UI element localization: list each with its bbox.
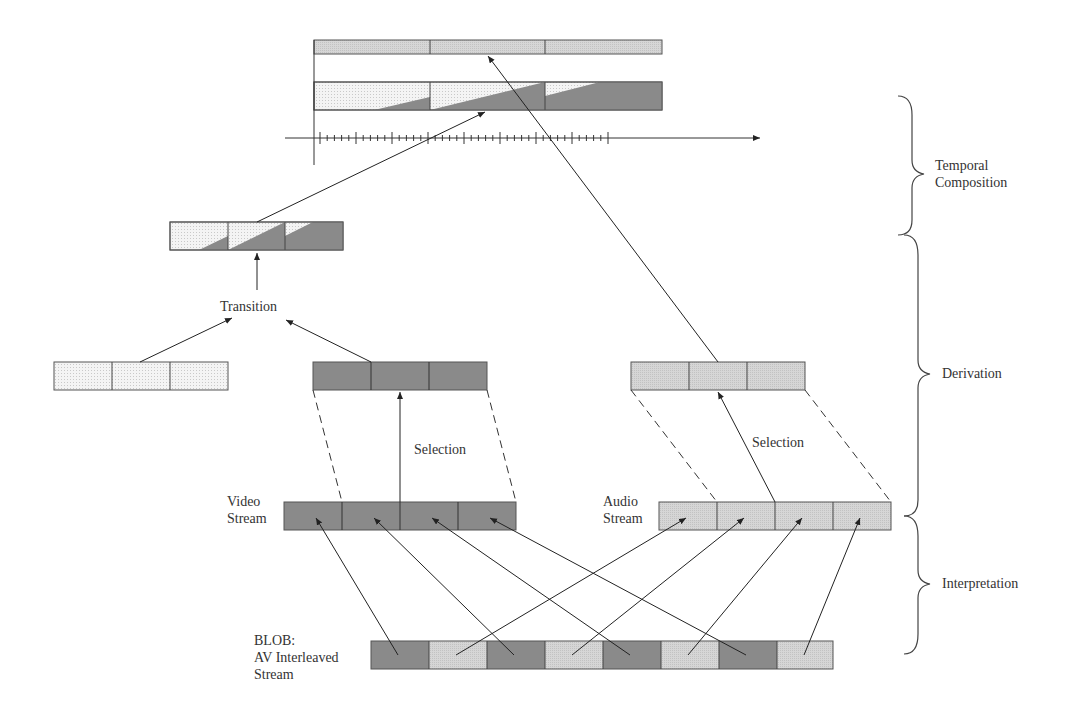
video-stream-label-1: Video xyxy=(227,493,260,510)
timeline-audio-track xyxy=(314,40,662,54)
brace-temporal-2: Composition xyxy=(935,174,1007,191)
brace-temporal-1: Temporal xyxy=(935,157,988,174)
video-selection-clip xyxy=(313,362,487,390)
braces xyxy=(898,96,930,654)
transition-label: Transition xyxy=(220,298,277,315)
blob-interleaved-bar xyxy=(371,641,833,669)
video-stream-label-2: Stream xyxy=(227,510,267,527)
audio-selection-clip xyxy=(631,362,805,390)
video-stream-bar xyxy=(284,502,516,530)
time-axis-ticks xyxy=(320,132,608,144)
audio-stream-label-1: Audio xyxy=(603,493,638,510)
brace-interpretation: Interpretation xyxy=(942,575,1018,592)
audio-stream-label-2: Stream xyxy=(603,510,643,527)
selection-video-label: Selection xyxy=(414,441,466,458)
timeline-video-track xyxy=(314,82,662,110)
blob-label-3: Stream xyxy=(254,666,294,683)
transition-result-clip xyxy=(170,222,343,250)
blob-label-2: AV Interleaved xyxy=(254,649,339,666)
selection-audio-label: Selection xyxy=(752,434,804,451)
diagram-canvas xyxy=(0,0,1069,711)
arrows xyxy=(140,56,860,655)
brace-derivation: Derivation xyxy=(942,365,1002,382)
light-clip xyxy=(54,362,228,390)
blob-label-1: BLOB: xyxy=(254,632,295,649)
audio-stream-bar xyxy=(659,502,891,530)
